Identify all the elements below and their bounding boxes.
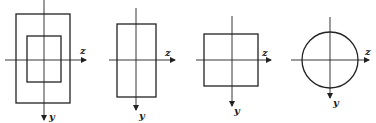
y-axis-label: y	[332, 97, 340, 108]
outer-rectangle	[16, 14, 70, 103]
z-axis-label: z	[164, 47, 171, 58]
y-axis-label: y	[48, 111, 56, 122]
z-axis-label: z	[261, 47, 268, 58]
figure-tall-rectangle: z y	[109, 8, 175, 121]
figure-circle: z y	[291, 17, 371, 108]
y-axis-label: y	[138, 110, 146, 121]
figure-hollow-rectangle: z y	[5, 0, 86, 122]
rectangle	[117, 24, 156, 97]
cross-sections-diagram: z y z y z y z y	[0, 0, 376, 123]
z-axis-label: z	[364, 46, 371, 57]
figure-square: z y	[196, 16, 271, 116]
z-axis-label: z	[79, 45, 86, 56]
y-axis-label: y	[233, 105, 241, 116]
